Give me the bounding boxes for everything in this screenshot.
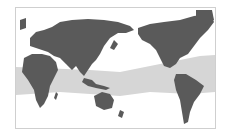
world-map: [0, 0, 229, 138]
landmass-britain: [20, 18, 26, 30]
landmass-new-zealand: [118, 110, 124, 118]
landmass-japan: [110, 40, 118, 50]
landmass-madagascar: [54, 92, 58, 100]
